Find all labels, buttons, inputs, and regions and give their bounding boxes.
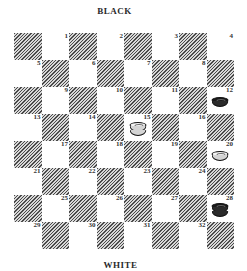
disc-layer [212, 211, 229, 217]
dark-square [69, 195, 97, 222]
dark-square [179, 33, 207, 60]
playable-square[interactable]: 12 [207, 87, 235, 114]
dark-square [42, 168, 70, 195]
dark-square [207, 222, 235, 249]
square-number: 29 [34, 221, 41, 229]
playable-square[interactable]: 23 [124, 168, 152, 195]
dark-square [14, 141, 42, 168]
square-number: 12 [226, 86, 233, 94]
playable-square[interactable]: 19 [152, 141, 180, 168]
square-number: 22 [89, 167, 96, 175]
playable-square[interactable]: 18 [97, 141, 125, 168]
disc-layer [212, 101, 229, 107]
square-number: 18 [116, 140, 123, 148]
dark-square [179, 87, 207, 114]
square-number: 24 [199, 167, 206, 175]
square-number: 30 [89, 221, 96, 229]
dark-square [207, 60, 235, 87]
playable-square[interactable]: 5 [14, 60, 42, 87]
square-number: 9 [65, 86, 69, 94]
playable-square[interactable]: 22 [69, 168, 97, 195]
square-number: 25 [61, 194, 68, 202]
dark-square [207, 114, 235, 141]
square-number: 10 [116, 86, 123, 94]
disc-layer [212, 155, 229, 161]
playable-square[interactable]: 20 [207, 141, 235, 168]
dark-square [97, 222, 125, 249]
dark-square [42, 60, 70, 87]
dark-square [14, 33, 42, 60]
dark-square [152, 114, 180, 141]
square-number: 32 [199, 221, 206, 229]
white-man-piece-icon[interactable] [212, 151, 229, 161]
square-number: 6 [92, 59, 96, 67]
square-number: 20 [226, 140, 233, 148]
white-king-piece-icon[interactable] [129, 122, 146, 136]
dark-square [42, 114, 70, 141]
dark-square [69, 33, 97, 60]
square-number: 14 [89, 113, 96, 121]
dark-square [152, 168, 180, 195]
dark-square [207, 168, 235, 195]
square-number: 4 [230, 32, 234, 40]
dark-square [14, 87, 42, 114]
dark-square [14, 195, 42, 222]
playable-square[interactable]: 14 [69, 114, 97, 141]
dark-square [152, 60, 180, 87]
playable-square[interactable]: 10 [97, 87, 125, 114]
playable-square[interactable]: 7 [124, 60, 152, 87]
playable-square[interactable]: 24 [179, 168, 207, 195]
playable-square[interactable]: 30 [69, 222, 97, 249]
playable-square[interactable]: 15 [124, 114, 152, 141]
square-number: 19 [171, 140, 178, 148]
playable-square[interactable]: 28 [207, 195, 235, 222]
playable-square[interactable]: 25 [42, 195, 70, 222]
square-number: 7 [147, 59, 151, 67]
playable-square[interactable]: 3 [152, 33, 180, 60]
playable-square[interactable]: 4 [207, 33, 235, 60]
playable-square[interactable]: 11 [152, 87, 180, 114]
square-number: 16 [199, 113, 206, 121]
square-number: 2 [120, 32, 124, 40]
playable-square[interactable]: 2 [97, 33, 125, 60]
square-number: 8 [202, 59, 206, 67]
square-number: 5 [37, 59, 41, 67]
dark-square [124, 87, 152, 114]
playable-square[interactable]: 29 [14, 222, 42, 249]
playable-square[interactable]: 31 [124, 222, 152, 249]
square-number: 28 [226, 194, 233, 202]
playable-square[interactable]: 16 [179, 114, 207, 141]
square-number: 31 [144, 221, 151, 229]
playable-square[interactable]: 32 [179, 222, 207, 249]
square-number: 1 [65, 32, 69, 40]
playable-square[interactable]: 21 [14, 168, 42, 195]
dark-square [179, 195, 207, 222]
dark-square [69, 87, 97, 114]
playable-square[interactable]: 13 [14, 114, 42, 141]
playable-square[interactable]: 8 [179, 60, 207, 87]
square-number: 23 [144, 167, 151, 175]
square-number: 3 [175, 32, 179, 40]
dark-square [42, 222, 70, 249]
playable-square[interactable]: 17 [42, 141, 70, 168]
dark-square [124, 141, 152, 168]
square-number: 13 [34, 113, 41, 121]
square-number: 27 [171, 194, 178, 202]
square-number: 11 [171, 86, 178, 94]
black-man-piece-icon[interactable] [212, 97, 229, 107]
dark-square [97, 168, 125, 195]
black-king-piece-icon[interactable] [212, 203, 229, 217]
dark-square [152, 222, 180, 249]
playable-square[interactable]: 9 [42, 87, 70, 114]
dark-square [124, 195, 152, 222]
dark-square [97, 114, 125, 141]
playable-square[interactable]: 6 [69, 60, 97, 87]
black-side-label: BLACK [0, 6, 238, 16]
playable-square[interactable]: 27 [152, 195, 180, 222]
disc-layer [129, 130, 146, 136]
playable-square[interactable]: 26 [97, 195, 125, 222]
square-number: 21 [34, 167, 41, 175]
square-number: 15 [144, 113, 151, 121]
white-side-label: WHITE [0, 260, 244, 270]
playable-square[interactable]: 1 [42, 33, 70, 60]
